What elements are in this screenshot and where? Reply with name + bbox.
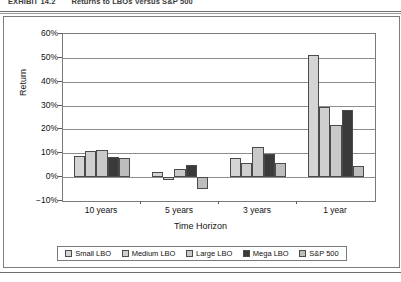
x-tick-label: 5 years [165,205,193,215]
bar-group [219,34,297,201]
bar [119,158,130,177]
chart-legend: Small LBOMedium LBOLarge LBOMega LBOS&P … [57,246,347,261]
bar-group [63,34,141,201]
bar [353,166,364,177]
legend-swatch-icon [299,250,306,257]
legend-swatch-icon [65,250,72,257]
legend-item[interactable]: Small LBO [65,249,111,258]
bar [174,169,185,177]
bar [241,163,252,177]
bar [252,147,263,177]
bar [108,157,119,177]
plot-area [62,33,376,202]
bar [96,150,107,177]
legend-label: S&P 500 [309,249,338,258]
bar [85,151,96,177]
bar [342,110,353,177]
bar [163,177,174,179]
footer-rule [0,272,401,273]
legend-swatch-icon [186,250,193,257]
bar [152,172,163,177]
bar [264,154,275,177]
legend-item[interactable]: S&P 500 [299,249,338,258]
bar [275,163,286,177]
caption-rule-top-secondary [0,13,401,14]
x-tick-label: 3 years [243,205,271,215]
y-tick-label: 40% [41,76,58,86]
y-tick-label: −10% [36,195,58,205]
x-axis-title: Time Horizon [0,221,401,231]
y-axis-ticks: 60%50%40%30%20%10%0%−10% [0,33,58,202]
legend-swatch-icon [122,250,129,257]
y-tick-label: 20% [41,123,58,133]
legend-label: Mega LBO [253,249,289,258]
y-tick-label: 30% [41,100,58,110]
bar [186,165,197,177]
x-tick-label: 10 years [85,205,118,215]
x-tick-mark [218,201,219,204]
x-tick-label: 1 year [323,205,347,215]
x-axis-ticks: 10 years5 years3 years1 year [62,201,374,217]
bar [230,158,241,177]
bar-groups [63,34,375,201]
x-tick-mark [296,201,297,204]
legend-item[interactable]: Mega LBO [243,249,289,258]
figure-root: EXHIBIT 14.2Returns to LBOs Versus S&P 5… [0,0,401,282]
legend-item[interactable]: Medium LBO [122,249,176,258]
bar [330,125,341,177]
caption-title: Returns to LBOs Versus S&P 500 [71,0,192,6]
bar [74,156,85,177]
legend-swatch-icon [243,250,250,257]
bar [197,177,208,189]
legend-label: Large LBO [196,249,232,258]
bar [308,55,319,177]
caption-line: EXHIBIT 14.2Returns to LBOs Versus S&P 5… [8,0,193,6]
legend-item[interactable]: Large LBO [186,249,232,258]
bar [319,107,330,177]
y-tick-label: 60% [41,28,58,38]
y-tick-label: 10% [41,147,58,157]
bar-group [297,34,375,201]
bar-group [141,34,219,201]
y-tick-label: 50% [41,52,58,62]
x-tick-mark [140,201,141,204]
legend-label: Medium LBO [132,249,176,258]
legend-label: Small LBO [75,249,111,258]
caption-rule-top [0,11,401,12]
y-tick-label: 0% [46,171,58,181]
caption-number: EXHIBIT 14.2 [8,0,55,6]
